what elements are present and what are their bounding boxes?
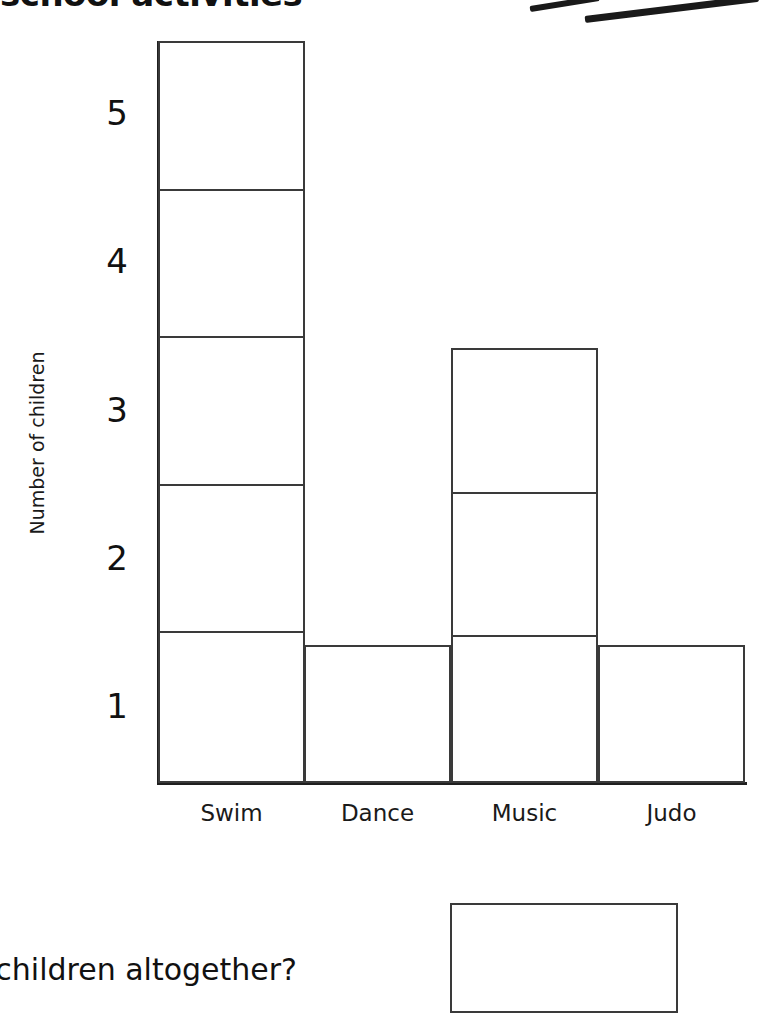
- y-tick-label-2: 2: [95, 538, 139, 578]
- bar-judo: [598, 645, 745, 783]
- bar-dance: [304, 645, 451, 783]
- bar-cell: [160, 191, 303, 339]
- bar-cell: [453, 494, 596, 638]
- bar-cell: [160, 486, 303, 634]
- bar-cell: [160, 338, 303, 486]
- x-tick-label-judo: Judo: [598, 800, 745, 826]
- bar-cell: [453, 637, 596, 781]
- x-tick-label-swim: Swim: [158, 800, 305, 826]
- y-axis-title: Number of children: [26, 313, 48, 573]
- bar-cell: [306, 647, 449, 781]
- x-tick-label-music: Music: [451, 800, 598, 826]
- y-tick-label-5: 5: [95, 93, 139, 133]
- y-tick-label-1: 1: [95, 686, 139, 726]
- answer-input-box[interactable]: [450, 903, 678, 1013]
- bar-cell: [160, 43, 303, 191]
- bar-cell: [453, 350, 596, 494]
- y-tick-label-4: 4: [95, 241, 139, 281]
- bar-cell: [160, 633, 303, 781]
- question-text: y children altogether?: [0, 952, 297, 987]
- bar-chart: Number of children 1 2 3 4 5: [0, 0, 757, 800]
- bar-swim: [158, 41, 305, 783]
- x-tick-label-dance: Dance: [304, 800, 451, 826]
- y-tick-label-3: 3: [95, 390, 139, 430]
- bar-cell: [600, 647, 743, 781]
- bar-music: [451, 348, 598, 783]
